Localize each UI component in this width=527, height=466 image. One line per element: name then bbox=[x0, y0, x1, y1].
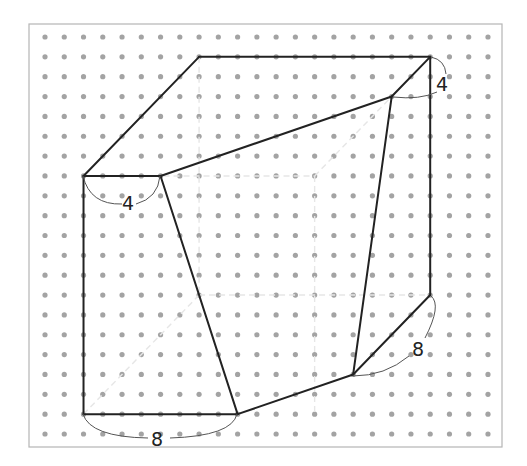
grid-dot bbox=[428, 412, 433, 417]
grid-dot bbox=[177, 94, 182, 99]
grid-dot bbox=[81, 134, 86, 139]
grid-dot bbox=[42, 193, 47, 198]
grid-dot bbox=[351, 233, 356, 238]
grid-dot bbox=[81, 34, 86, 39]
grid-dot bbox=[62, 134, 67, 139]
grid-dot bbox=[408, 134, 413, 139]
grid-dot bbox=[408, 372, 413, 377]
grid-dot bbox=[408, 173, 413, 178]
grid-dot bbox=[254, 392, 259, 397]
grid-dot bbox=[370, 312, 375, 317]
grid-dot bbox=[466, 352, 471, 357]
grid-dot bbox=[447, 332, 452, 337]
grid-dot bbox=[389, 173, 394, 178]
grid-dot bbox=[274, 253, 279, 258]
grid-dot bbox=[466, 173, 471, 178]
grid-dot bbox=[62, 94, 67, 99]
grid-dot bbox=[139, 292, 144, 297]
geometry-diagram: 4 4 8 8 bbox=[0, 0, 527, 466]
grid-dot bbox=[274, 312, 279, 317]
grid-dot bbox=[158, 34, 163, 39]
grid-dot bbox=[389, 74, 394, 79]
grid-dot bbox=[485, 134, 490, 139]
grid-dot bbox=[81, 114, 86, 119]
grid-dot bbox=[139, 273, 144, 278]
grid-dot bbox=[447, 312, 452, 317]
grid-dot bbox=[466, 332, 471, 337]
grid-dot bbox=[389, 312, 394, 317]
grid-dot bbox=[351, 431, 356, 436]
grid-dot bbox=[331, 392, 336, 397]
grid-dot bbox=[274, 114, 279, 119]
grid-dot bbox=[100, 74, 105, 79]
grid-dot bbox=[254, 431, 259, 436]
grid-dot bbox=[293, 114, 298, 119]
grid-dot bbox=[254, 332, 259, 337]
grid-dot bbox=[447, 392, 452, 397]
grid-dot bbox=[119, 392, 124, 397]
grid-dot bbox=[196, 332, 201, 337]
grid-dot bbox=[196, 34, 201, 39]
grid-dot bbox=[139, 431, 144, 436]
grid-dot bbox=[370, 193, 375, 198]
grid-dot bbox=[331, 372, 336, 377]
grid-dot bbox=[235, 352, 240, 357]
grid-dot bbox=[100, 292, 105, 297]
grid-dot bbox=[177, 134, 182, 139]
grid-dot bbox=[485, 34, 490, 39]
grid-dot bbox=[42, 312, 47, 317]
grid-dot bbox=[81, 94, 86, 99]
grid-dot bbox=[81, 74, 86, 79]
grid-dot bbox=[370, 34, 375, 39]
grid-dot bbox=[177, 253, 182, 258]
grid-dot bbox=[235, 253, 240, 258]
grid-dot bbox=[331, 332, 336, 337]
grid-dot bbox=[351, 253, 356, 258]
grid-dot bbox=[177, 292, 182, 297]
grid-dot bbox=[351, 94, 356, 99]
grid-dot bbox=[177, 193, 182, 198]
grid-dot bbox=[42, 74, 47, 79]
grid-dot bbox=[485, 213, 490, 218]
grid-dot bbox=[331, 253, 336, 258]
grid-dot bbox=[139, 74, 144, 79]
grid-dot bbox=[42, 253, 47, 258]
grid-dot bbox=[62, 233, 67, 238]
grid-dot bbox=[42, 273, 47, 278]
grid-dot bbox=[293, 34, 298, 39]
grid-dot bbox=[100, 253, 105, 258]
grid-dot bbox=[447, 154, 452, 159]
grid-dot bbox=[331, 94, 336, 99]
grid-dot bbox=[485, 412, 490, 417]
grid-dot bbox=[274, 352, 279, 357]
grid-dot bbox=[331, 213, 336, 218]
grid-dot bbox=[293, 74, 298, 79]
grid-dot bbox=[408, 193, 413, 198]
grid-dot bbox=[466, 273, 471, 278]
grid-dot bbox=[293, 253, 298, 258]
grid-dot bbox=[42, 332, 47, 337]
grid-dot bbox=[254, 213, 259, 218]
grid-dot bbox=[216, 94, 221, 99]
grid-dot bbox=[196, 312, 201, 317]
grid-dot bbox=[370, 332, 375, 337]
grid-dot bbox=[312, 431, 317, 436]
grid-dot bbox=[216, 193, 221, 198]
grid-dot bbox=[331, 74, 336, 79]
grid-dot bbox=[274, 372, 279, 377]
grid-dot bbox=[254, 114, 259, 119]
grid-dot bbox=[485, 94, 490, 99]
grid-dot bbox=[485, 372, 490, 377]
grid-dot bbox=[235, 372, 240, 377]
grid-dot bbox=[235, 193, 240, 198]
grid-dot bbox=[216, 114, 221, 119]
grid-dot bbox=[158, 114, 163, 119]
grid-dot bbox=[235, 392, 240, 397]
grid-dot bbox=[254, 34, 259, 39]
grid-dot bbox=[177, 54, 182, 59]
grid-dot bbox=[485, 54, 490, 59]
grid-dot bbox=[196, 352, 201, 357]
grid-dot bbox=[466, 34, 471, 39]
grid-dot bbox=[81, 154, 86, 159]
grid-dot bbox=[466, 312, 471, 317]
